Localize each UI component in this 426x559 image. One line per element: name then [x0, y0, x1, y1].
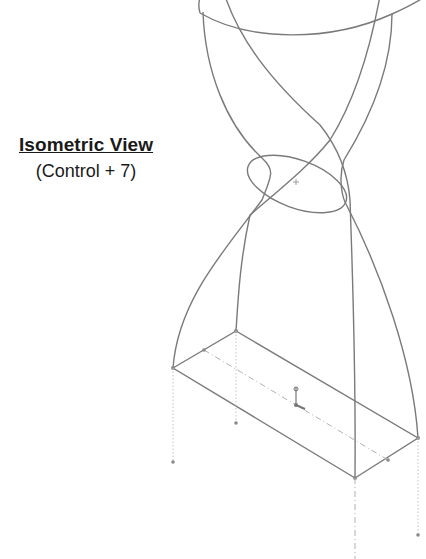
twist-curve-b [236, 0, 380, 331]
right-guide-curve [341, 14, 418, 438]
isometric-drawing [0, 0, 426, 559]
twist-curve-a [225, 0, 355, 478]
middle-ellipse [240, 144, 354, 225]
origin-axis-icon [294, 387, 305, 409]
left-guide-curve [173, 12, 271, 368]
center-mark-icon [293, 179, 299, 185]
